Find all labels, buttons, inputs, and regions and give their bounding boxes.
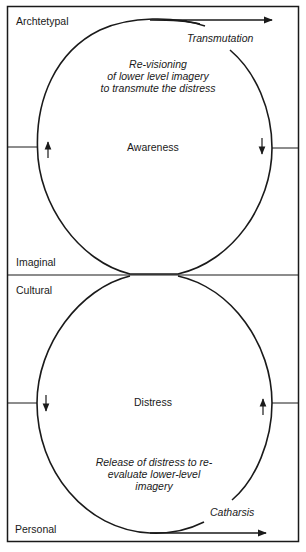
level-label-personal: Personal (15, 523, 56, 535)
upper-description: Re-visioning of lower level imagery to t… (88, 58, 228, 94)
transmutation-arrow (150, 20, 272, 24)
lower-description-line: imagery (84, 480, 224, 492)
lower-description-line: evaluate lower-level (84, 468, 224, 480)
transmutation-label: Transmutation (187, 32, 253, 44)
upper-description-line: to transmute the distress (88, 82, 228, 94)
distress-label: Distress (134, 396, 172, 408)
lower-cycle-circle (37, 276, 204, 533)
lower-description-line: Release of distress to re- (84, 456, 224, 468)
catharsis-label: Catharsis (210, 506, 254, 518)
level-label-cultural: Cultural (16, 284, 52, 296)
level-label-imaginal: Imaginal (16, 256, 56, 268)
awareness-label: Awareness (127, 141, 179, 153)
level-label-archetypal: Archtetypal (16, 15, 69, 27)
upper-description-line: Re-visioning (88, 58, 228, 70)
upper-description-line: of lower level imagery (88, 70, 228, 82)
lower-description: Release of distress to re- evaluate lowe… (84, 456, 224, 492)
